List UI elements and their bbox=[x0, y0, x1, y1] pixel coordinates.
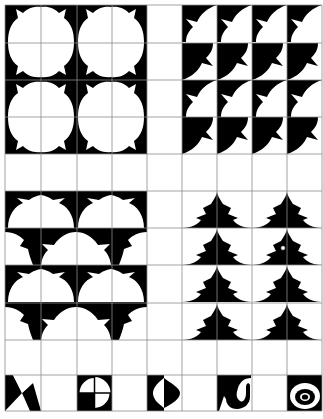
motif-quartered-circle bbox=[77, 375, 112, 411]
motif-half-lens bbox=[147, 375, 182, 411]
motif-hook bbox=[217, 375, 252, 411]
scallop-panel bbox=[0, 191, 147, 340]
pattern-sheet bbox=[0, 0, 323, 419]
motif-eye bbox=[287, 375, 322, 411]
motif-bowtie bbox=[5, 375, 41, 411]
quatrefoil-panel bbox=[5, 5, 147, 154]
